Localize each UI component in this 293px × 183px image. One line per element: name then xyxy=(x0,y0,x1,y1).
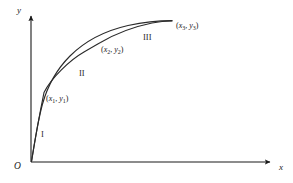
point-label-close-paren: ) xyxy=(121,45,124,54)
point-label-sub-x: 2 xyxy=(107,49,110,55)
plot-area xyxy=(0,0,293,183)
region-label-ii: II xyxy=(79,69,85,78)
point-label-sub-y: 3 xyxy=(193,25,196,31)
point-label-x3-y3: (x3, y3) xyxy=(176,22,198,30)
point-label-close-paren: ) xyxy=(196,21,199,30)
point-label-sub-x: 3 xyxy=(182,25,185,31)
region-label-iii: III xyxy=(143,33,152,42)
point-label-x2-y2: (x2, y2) xyxy=(101,46,123,54)
point-label-sub-x: 1 xyxy=(52,98,55,104)
point-label-sub-y: 2 xyxy=(118,49,121,55)
y-axis-label: y xyxy=(17,6,21,15)
point-label-sub-y: 1 xyxy=(63,98,66,104)
region-label-i: I xyxy=(41,130,44,139)
origin-label: O xyxy=(14,162,21,172)
figure-canvas: y x O (x1, y1) (x2, y2) (x3, y3) I II II… xyxy=(0,0,293,183)
point-label-x1-y1: (x1, y1) xyxy=(46,95,68,103)
x-axis-label: x xyxy=(279,163,283,172)
point-label-close-paren: ) xyxy=(66,94,69,103)
